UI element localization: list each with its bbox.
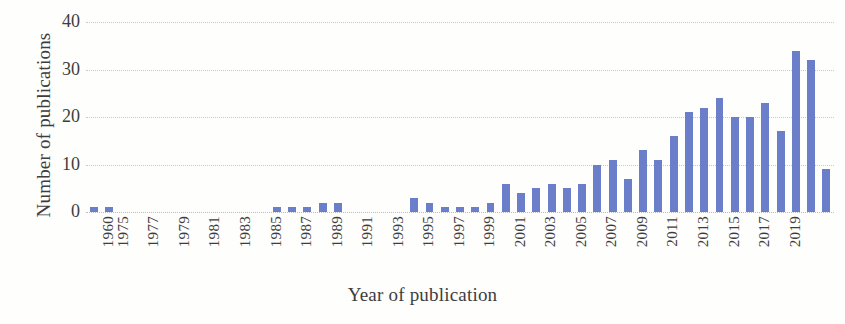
bar: [563, 188, 571, 212]
bar: [273, 207, 281, 212]
bar: [761, 103, 769, 212]
bar: [639, 150, 647, 212]
x-tick-label-1987: 1987: [298, 216, 315, 247]
bar: [532, 188, 540, 212]
x-axis-title: Year of publication: [0, 284, 845, 306]
bar: [548, 184, 556, 213]
x-tick-label-2005: 2005: [573, 216, 590, 247]
bar: [441, 207, 449, 212]
x-tick-label-2019: 2019: [787, 216, 804, 247]
bar: [426, 203, 434, 213]
x-tick-label-2007: 2007: [603, 216, 620, 247]
y-tick-label-30: 30: [40, 59, 80, 80]
bar: [716, 98, 724, 212]
plot-area: [86, 22, 834, 212]
bar: [670, 136, 678, 212]
bar: [578, 184, 586, 213]
x-tick-label-1977: 1977: [145, 216, 162, 247]
bar: [685, 112, 693, 212]
bar: [792, 51, 800, 213]
x-tick-label-1979: 1979: [176, 216, 193, 247]
y-tick-label-20: 20: [40, 106, 80, 127]
x-tick-label-1991: 1991: [359, 216, 376, 247]
x-tick-label-1993: 1993: [390, 216, 407, 247]
bar: [502, 184, 510, 213]
bar: [822, 169, 830, 212]
bar: [288, 207, 296, 212]
x-tick-label-1995: 1995: [420, 216, 437, 247]
bar: [700, 108, 708, 213]
x-tick-label-1981: 1981: [206, 216, 223, 247]
y-tick-label-40: 40: [40, 11, 80, 32]
bar: [517, 193, 525, 212]
x-tick-label-2011: 2011: [664, 216, 681, 247]
bar: [319, 203, 327, 213]
x-tick-label-2015: 2015: [726, 216, 743, 247]
bar: [777, 131, 785, 212]
bar: [624, 179, 632, 212]
y-axis-tick-labels: 010203040: [40, 22, 80, 212]
bar: [593, 165, 601, 213]
bar: [471, 207, 479, 212]
bar: [654, 160, 662, 212]
bar: [105, 207, 113, 212]
x-tick-label-1989: 1989: [329, 216, 346, 247]
x-axis-tick-labels: 1960197519771979198119831985198719891991…: [86, 214, 834, 276]
bar: [807, 60, 815, 212]
bar: [334, 203, 342, 213]
x-tick-label-2013: 2013: [695, 216, 712, 247]
x-tick-label-1999: 1999: [481, 216, 498, 247]
x-tick-label-2003: 2003: [542, 216, 559, 247]
y-tick-label-10: 10: [40, 154, 80, 175]
x-tick-label-1997: 1997: [451, 216, 468, 247]
publications-bar-chart: Number of publications 010203040 1960197…: [0, 0, 845, 324]
y-tick-label-0: 0: [40, 201, 80, 222]
bar: [746, 117, 754, 212]
bar: [456, 207, 464, 212]
x-tick-label-1975: 1975: [115, 216, 132, 247]
bar: [609, 160, 617, 212]
bar: [487, 203, 495, 213]
bar-series: [86, 22, 834, 212]
x-tick-label-1985: 1985: [268, 216, 285, 247]
bar: [90, 207, 98, 212]
bar: [410, 198, 418, 212]
x-tick-label-2017: 2017: [756, 216, 773, 247]
bar: [731, 117, 739, 212]
x-tick-label-2009: 2009: [634, 216, 651, 247]
x-tick-label-1983: 1983: [237, 216, 254, 247]
bar: [303, 207, 311, 212]
x-tick-label-2001: 2001: [512, 216, 529, 247]
